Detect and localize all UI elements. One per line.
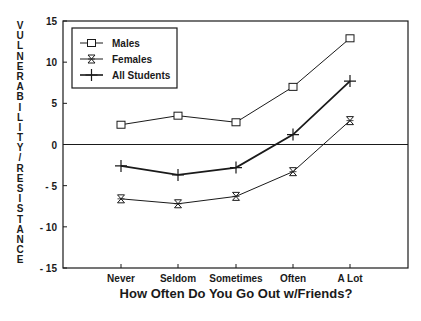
line-chart: 151050- 5- 10- 15NeverSeldomSometimesOft… bbox=[0, 0, 421, 321]
y-tick-label: 0 bbox=[51, 140, 57, 151]
y-tick-label: - 5 bbox=[45, 181, 57, 192]
legend-item: Females bbox=[80, 54, 152, 65]
square-marker-icon bbox=[174, 112, 182, 119]
square-marker-icon bbox=[346, 35, 354, 42]
plus-marker-icon bbox=[115, 160, 127, 172]
square-marker-icon bbox=[117, 121, 125, 128]
y-tick-label: 5 bbox=[51, 98, 57, 109]
plus-marker-icon bbox=[230, 162, 242, 174]
plus-marker-icon bbox=[172, 169, 184, 181]
square-marker-icon bbox=[289, 83, 297, 90]
y-tick-label: - 15 bbox=[40, 263, 58, 274]
y-tick-label: 15 bbox=[46, 16, 58, 27]
series-all-students bbox=[115, 75, 356, 181]
legend-label: Females bbox=[112, 54, 152, 65]
square-marker-icon bbox=[88, 40, 96, 47]
x-tick-label: Sometimes bbox=[209, 273, 263, 284]
y-tick-label: 10 bbox=[46, 57, 58, 68]
x-tick-label: Often bbox=[280, 273, 306, 284]
x-axis-label: How Often Do You Go Out w/Friends? bbox=[120, 286, 353, 301]
square-marker-icon bbox=[232, 119, 240, 126]
x-tick-label: Seldom bbox=[160, 273, 196, 284]
x-tick-label: Never bbox=[107, 273, 135, 284]
legend-label: All Students bbox=[112, 70, 171, 81]
legend-label: Males bbox=[112, 38, 140, 49]
legend: MalesFemalesAll Students bbox=[72, 28, 177, 88]
x-tick-label: A Lot bbox=[337, 273, 363, 284]
y-tick-label: - 10 bbox=[40, 222, 58, 233]
